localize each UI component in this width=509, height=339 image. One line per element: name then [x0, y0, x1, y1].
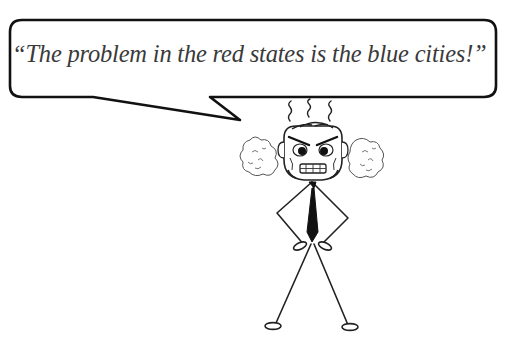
necktie-icon [307, 182, 318, 242]
right-ear-smoke-icon [348, 138, 384, 177]
speech-bubble [10, 20, 496, 120]
steam-icon [289, 99, 332, 121]
speech-bubble-quote: “The problem in the red states is the bl… [12, 40, 494, 68]
left-ear-smoke-icon [240, 137, 278, 176]
angry-face [278, 122, 348, 180]
